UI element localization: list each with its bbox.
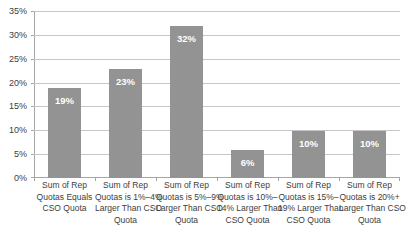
x-axis-label-line: Quotas is 5%–9%	[156, 192, 217, 204]
bar[interactable]: 10%	[353, 131, 386, 178]
x-axis-label-line: CSO Quota	[34, 203, 95, 215]
bar[interactable]: 19%	[48, 88, 81, 178]
x-axis-label-line: CSO Quota	[278, 215, 339, 227]
x-axis-category-label: Sum of Rep Quotas Equals CSO Quota	[34, 180, 95, 215]
x-axis-label-line: CSO Quota	[217, 215, 278, 227]
bar-chart: 35% 30% 25% 20% 15% 10% 5% 0%	[0, 0, 410, 240]
x-axis-label-line: Sum of Rep	[278, 180, 339, 192]
bar[interactable]: 32%	[170, 26, 203, 178]
x-axis-label-line: Quotas is 20%+	[339, 192, 400, 204]
bar-series: 19% 23% 32% 6% 10% 10%	[34, 11, 400, 178]
x-axis-label-line: Sum of Rep	[156, 180, 217, 192]
y-axis: 35% 30% 25% 20% 15% 10% 5% 0%	[0, 0, 31, 178]
x-axis-category-label: Sum of Rep Quotas is 15%– 19% Larger Tha…	[278, 180, 339, 226]
x-axis-category-label: Sum of Rep Quotas is 5%–9% Larger Than C…	[156, 180, 217, 226]
y-axis-tick-label: 30%	[9, 30, 27, 39]
x-axis-category-label: Sum of Rep Quotas is 1%–4% Larger Than C…	[95, 180, 156, 226]
x-axis-label-line: Sum of Rep	[339, 180, 400, 192]
x-axis-label-line: Quota	[339, 215, 400, 227]
x-axis-label-line: Quotas is 1%–4%	[95, 192, 156, 204]
y-axis-tick-label: 35%	[9, 7, 27, 16]
x-axis-label-line: Sum of Rep	[34, 180, 95, 192]
x-axis-label-line: Larger Than CSO	[156, 203, 217, 215]
x-axis: Sum of Rep Quotas Equals CSO Quota Sum o…	[34, 180, 400, 238]
bar[interactable]: 23%	[109, 69, 142, 178]
x-axis-label-line: Sum of Rep	[95, 180, 156, 192]
bar-data-label: 19%	[48, 96, 81, 106]
bar-data-label: 32%	[170, 34, 203, 44]
bar-data-label: 23%	[109, 77, 142, 87]
x-axis-category-label: Sum of Rep Quotas is 10%– 14% Larger Tha…	[217, 180, 278, 226]
y-axis-tick-label: 10%	[9, 126, 27, 135]
x-axis-label-line: 14% Larger Than	[217, 203, 278, 215]
bar-data-label: 10%	[353, 139, 386, 149]
bar[interactable]: 6%	[231, 150, 264, 179]
bar[interactable]: 10%	[292, 131, 325, 178]
bar-data-label: 10%	[292, 139, 325, 149]
x-axis-label-line: Quota	[156, 215, 217, 227]
plot-area: 19% 23% 32% 6% 10% 10%	[34, 11, 400, 178]
x-axis-category-label: Sum of Rep Quotas is 20%+ Larger Than CS…	[339, 180, 400, 226]
y-axis-tick-label: 15%	[9, 102, 27, 111]
x-axis-label-line: Sum of Rep	[217, 180, 278, 192]
x-axis-label-line: Larger Than CSO	[95, 203, 156, 215]
x-axis-label-line: Quotas Equals	[34, 192, 95, 204]
y-axis-tick-label: 0%	[14, 174, 27, 183]
bar-data-label: 6%	[231, 158, 264, 168]
y-axis-tick-label: 20%	[9, 78, 27, 87]
y-axis-tick-label: 25%	[9, 54, 27, 63]
x-axis-label-line: 19% Larger Than	[278, 203, 339, 215]
x-axis-label-line: Quota	[95, 215, 156, 227]
x-axis-label-line: Larger Than CSO	[339, 203, 400, 215]
y-axis-tick-label: 5%	[14, 150, 27, 159]
x-axis-label-line: Quotas is 15%–	[278, 192, 339, 204]
x-axis-label-line: Quotas is 10%–	[217, 192, 278, 204]
